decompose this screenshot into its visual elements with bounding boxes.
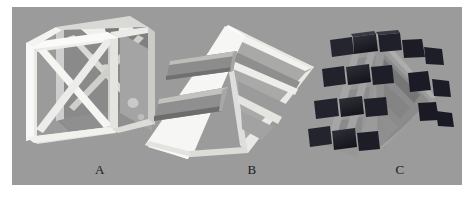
prism-c-block — [408, 71, 431, 92]
prism-c-block — [364, 97, 388, 117]
prism-c-block — [314, 98, 339, 119]
specimen-c-group — [308, 30, 454, 157]
prism-c-block — [353, 34, 378, 54]
prism-c-block-row-4 — [308, 126, 380, 151]
prism-c-block — [332, 128, 357, 150]
prism-c-block — [330, 37, 354, 57]
prism-c-block — [339, 96, 364, 117]
prism-c-block — [322, 66, 346, 87]
prism-c-block — [418, 102, 439, 121]
specimen-photo-plate: A B C — [12, 7, 462, 185]
prism-c-block — [346, 64, 371, 85]
prism-c-block — [432, 79, 451, 97]
prism-c-block — [424, 47, 444, 65]
prism-c-block — [357, 131, 380, 151]
specimen-label-a: A — [85, 162, 115, 178]
prism-c-block — [436, 111, 454, 127]
prism-c-block — [371, 65, 394, 85]
prism-c-block — [378, 33, 402, 52]
specimen-label-b: B — [237, 162, 267, 178]
specimen-label-c: C — [385, 162, 415, 178]
specimen-c-drawing — [12, 7, 462, 185]
figure-panel: A B C — [0, 0, 472, 200]
prism-c-block — [308, 126, 332, 147]
prism-c-block — [402, 39, 425, 58]
